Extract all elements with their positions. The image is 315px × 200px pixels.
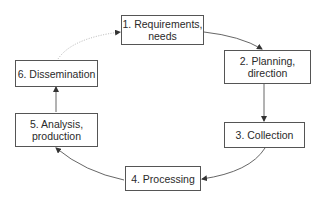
node-processing: 4. Processing: [125, 166, 201, 191]
intelligence-cycle-diagram: 1. Requirements, needs 2. Planning, dire…: [0, 0, 315, 200]
node-requirements-line2: needs: [148, 30, 177, 42]
node-dissemination-label: 6. Dissemination: [18, 68, 96, 80]
node-planning: 2. Planning, direction: [224, 50, 311, 84]
node-planning-line1: 2. Planning,: [240, 55, 295, 67]
node-processing-label: 4. Processing: [131, 173, 195, 185]
node-analysis-line1: 5. Analysis,: [30, 118, 83, 130]
node-requirements: 1. Requirements, needs: [121, 15, 204, 45]
node-collection: 3. Collection: [224, 122, 305, 148]
arrow-dissemination-to-requirements: [58, 32, 120, 59]
arrow-processing-to-analysis: [56, 148, 124, 180]
node-dissemination: 6. Dissemination: [15, 60, 98, 87]
arrow-requirements-to-planning: [204, 32, 262, 49]
node-analysis-line2: production: [32, 130, 81, 142]
node-collection-label: 3. Collection: [236, 129, 294, 141]
node-analysis: 5. Analysis, production: [15, 113, 98, 147]
node-requirements-line1: 1. Requirements,: [123, 18, 203, 30]
node-planning-line2: direction: [248, 67, 288, 79]
arrow-collection-to-processing: [202, 148, 265, 179]
